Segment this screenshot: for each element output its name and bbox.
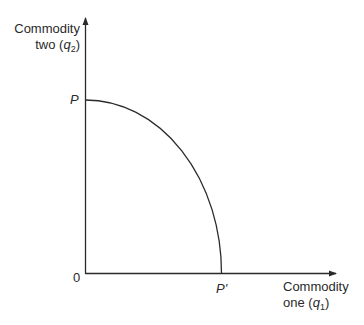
point-p-prime-label: P' [216, 281, 227, 297]
point-p-label: P [70, 92, 79, 108]
ppf-curve [86, 100, 222, 274]
y-axis-label: Commodity two (q2) [0, 21, 80, 53]
x-axis-label-line2: one (q1) [283, 295, 349, 311]
x-axis-label-line1: Commodity [283, 279, 349, 295]
y-axis-label-line2: two (q2) [0, 37, 80, 53]
y-axis-label-line1: Commodity [0, 21, 80, 37]
origin-label: 0 [73, 270, 80, 286]
x-axis-label: Commodity one (q1) [283, 279, 349, 311]
